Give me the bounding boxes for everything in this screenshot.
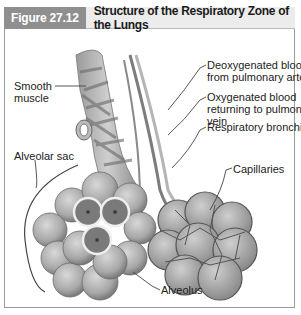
label-deoxygenated-blood: Deoxygenated blood from pulmonary artery — [207, 59, 301, 83]
alveolar-sac-cluster — [33, 172, 156, 300]
label-smooth-muscle: Smooth muscle — [14, 80, 52, 104]
label-respiratory-bronchiole: Respiratory bronchiole — [207, 121, 301, 133]
label-capillaries: Capillaries — [233, 163, 284, 175]
label-alveolus: Alveolus — [161, 284, 203, 296]
label-alveolar-sac: Alveolar sac — [14, 150, 74, 162]
